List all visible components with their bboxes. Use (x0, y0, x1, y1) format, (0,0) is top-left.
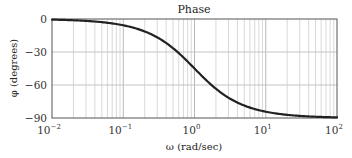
y-tick-label: −90 (25, 112, 47, 124)
x-tick-label: 101 (254, 123, 272, 136)
x-axis-label: ω (rad/sec) (166, 141, 222, 152)
y-tick-label: 0 (40, 13, 47, 25)
x-tick-label: 100 (183, 123, 201, 136)
x-tick-label: 102 (325, 123, 343, 136)
x-tick-label: 10−1 (108, 123, 132, 136)
chart-title: Phase (177, 3, 210, 16)
y-axis-label: φ (degrees) (8, 39, 19, 98)
x-tick-label: 10−2 (37, 123, 61, 136)
x-tick-labels: 10−210−1100101102 (37, 123, 343, 136)
y-tick-label: −60 (25, 79, 47, 91)
y-tick-label: −30 (25, 46, 47, 58)
y-tick-labels: 0−30−60−90 (25, 13, 47, 124)
phase-chart: Phase 0−30−60−90 10−210−1100101102 ω (ra… (0, 0, 352, 158)
